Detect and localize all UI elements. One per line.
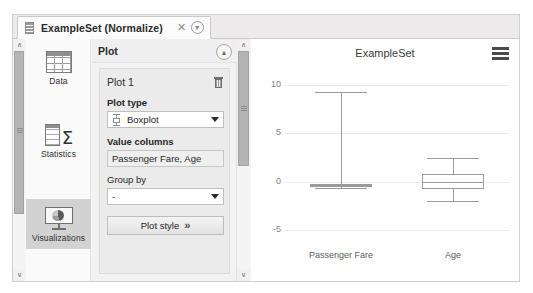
scroll-up-arrow-icon[interactable]: ∧ (237, 39, 250, 51)
plot-style-button[interactable]: Plot style » (107, 216, 224, 235)
plot-config-panel: Plot ▲ Plot 1 Plot type (92, 39, 237, 281)
table-icon (46, 51, 72, 73)
trash-icon[interactable] (214, 77, 223, 88)
sidebar-item-label: Data (49, 76, 67, 86)
value-columns-field[interactable]: Passenger Fare, Age (107, 150, 224, 167)
detach-icon[interactable]: ▼ (191, 21, 204, 34)
plot-type-value: Boxplot (127, 114, 211, 125)
plot-panel-header: Plot ▲ (92, 39, 237, 63)
scroll-down-arrow-icon[interactable]: ∨ (13, 269, 25, 281)
value-columns-label: Value columns (107, 136, 174, 147)
group-by-value: - (112, 191, 211, 202)
sidebar-item-statistics[interactable]: Σ Statistics (26, 124, 91, 159)
window-body: ∧ ∨ Data Σ Statistics (13, 39, 519, 281)
mid-scroll-thumb[interactable] (238, 51, 249, 166)
plot-panel-title: Plot (98, 45, 118, 57)
scroll-grip-icon (241, 106, 247, 111)
median-line (422, 182, 484, 183)
plot-card: Plot 1 Plot type Boxplot (99, 68, 230, 274)
tab-exampleset[interactable]: ExampleSet (Normalize) ✕ ▼ (17, 16, 211, 39)
chart-presentation-icon (45, 207, 73, 230)
chart-title: ExampleSet (251, 47, 519, 59)
chart-area: ExampleSet 1050-5Passenger FareAge (251, 39, 519, 281)
left-scroll-thumb[interactable] (14, 51, 24, 214)
left-scrollbar[interactable]: ∧ ∨ (13, 39, 25, 281)
whisker-upper (453, 158, 454, 174)
sidebar-item-visualizations[interactable]: Visualizations (26, 199, 91, 249)
tab-strip: ExampleSet (Normalize) ✕ ▼ (13, 15, 519, 39)
plot-type-label: Plot type (107, 97, 147, 108)
group-by-dropdown[interactable]: - (107, 188, 224, 205)
whisker-cap-upper (427, 158, 479, 159)
sidebar-item-data[interactable]: Data (26, 51, 91, 86)
plot-type-dropdown[interactable]: Boxplot (107, 111, 224, 128)
close-icon[interactable]: ✕ (177, 22, 186, 33)
table-icon (25, 22, 34, 34)
whisker-cap-lower (427, 201, 479, 202)
plot-panel-scrollbar[interactable]: ∧ ∨ (237, 39, 250, 281)
sigma-table-icon: Σ (45, 124, 72, 146)
result-window: ExampleSet (Normalize) ✕ ▼ ∧ ∨ Data (12, 14, 520, 282)
scroll-up-arrow-icon[interactable]: ∧ (13, 39, 25, 51)
scroll-grip-icon (17, 128, 23, 133)
tab-title: ExampleSet (Normalize) (41, 22, 163, 34)
hamburger-menu-icon[interactable] (492, 47, 509, 60)
sidebar-item-label: Statistics (41, 149, 76, 159)
scroll-down-arrow-icon[interactable]: ∨ (237, 269, 250, 281)
plot-card-header: Plot 1 (107, 74, 223, 90)
whisker-lower (453, 189, 454, 201)
x-axis-tick-label: Age (403, 250, 503, 260)
sidebar-item-label: Visualizations (32, 233, 85, 243)
plot-style-label: Plot style (141, 220, 180, 231)
chevron-down-icon (211, 194, 219, 199)
boxplot-icon (112, 114, 121, 126)
chevron-down-icon (211, 117, 219, 122)
view-nav-rail: Data Σ Statistics Visualizations (26, 39, 91, 281)
app-root: ExampleSet (Normalize) ✕ ▼ ∧ ∨ Data (0, 0, 533, 293)
boxplot-series (259, 67, 511, 272)
chevron-double-right-icon: » (184, 220, 190, 231)
group-by-label: Group by (107, 174, 146, 185)
boxplot-canvas: 1050-5Passenger FareAge (259, 67, 511, 272)
chevron-double-up-icon[interactable]: ▲ (216, 44, 232, 60)
plot-name-label: Plot 1 (107, 76, 134, 88)
